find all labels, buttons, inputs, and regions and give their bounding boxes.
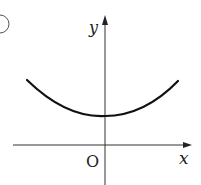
graph: y O x [0,0,201,185]
origin-label: O [86,152,99,171]
y-axis-label: y [88,18,99,37]
x-axis-label: x [179,148,189,168]
y-axis-arrow-icon [102,15,108,25]
circled-label-fragment [0,15,9,33]
u-shaped-curve [27,80,178,116]
